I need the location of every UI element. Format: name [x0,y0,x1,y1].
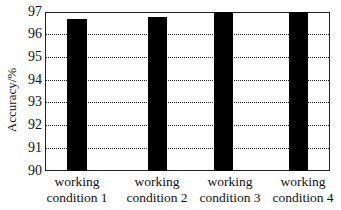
xlabel-line2: condition 3 [190,190,270,206]
gridline-92 [46,125,329,126]
xlabel-condition-2: working condition 2 [117,174,197,206]
bar-condition-3 [214,12,233,171]
xlabel-condition-1: working condition 1 [37,174,117,206]
y-axis-label: Accuracy/% [4,60,20,140]
gridline-91 [46,148,329,149]
bar-condition-4 [289,12,308,171]
xlabel-line1: working [263,174,341,190]
gridline-96 [46,34,329,35]
xlabel-line2: condition 1 [37,190,117,206]
ytick-97: 97 [16,5,42,19]
ytick-96: 96 [16,27,42,41]
gridline-95 [46,57,329,58]
xlabel-line1: working [190,174,270,190]
bar-condition-1 [67,19,87,171]
bar-chart: 97 96 95 94 93 92 91 90 Accuracy/% worki… [0,0,341,210]
xlabel-line2: condition 2 [117,190,197,206]
xlabel-line2: condition 4 [263,190,341,206]
gridline-94 [46,80,329,81]
xlabel-line1: working [37,174,117,190]
xlabel-condition-3: working condition 3 [190,174,270,206]
xlabel-condition-4: working condition 4 [263,174,341,206]
gridline-93 [46,102,329,103]
bar-condition-2 [148,17,167,171]
ytick-91: 91 [16,141,42,155]
xlabel-line1: working [117,174,197,190]
